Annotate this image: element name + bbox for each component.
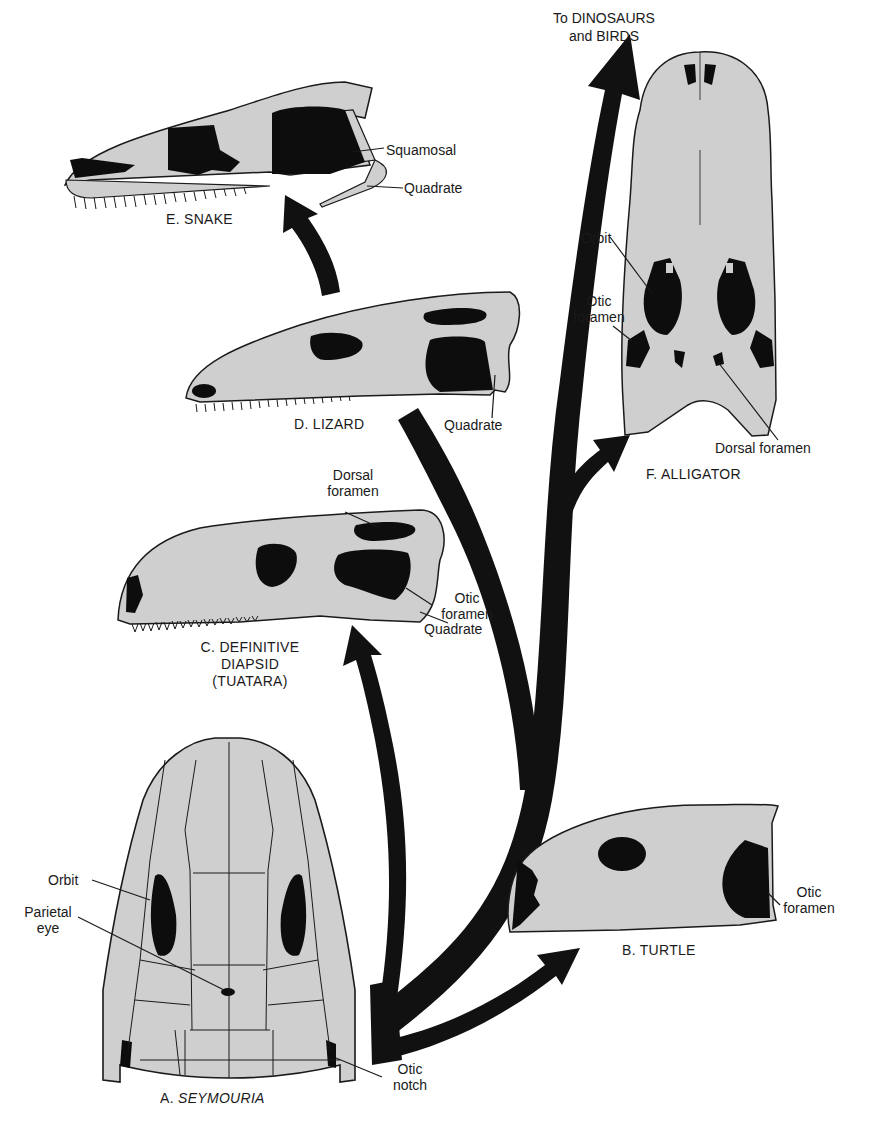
turtle-caption: B. TURTLE	[622, 942, 696, 959]
snake-lower-jaw	[66, 180, 270, 198]
alligator-orbit-label: Orbit	[581, 230, 611, 247]
tuatara-dorsal-label-line2: foramen	[327, 483, 378, 500]
tuatara-caption-line3: (TUATARA)	[212, 673, 287, 690]
lizard-caption: D. LIZARD	[294, 416, 364, 433]
snake-squamosal-label: Squamosal	[386, 142, 456, 159]
to-dinosaurs-label: To DINOSAURS	[553, 10, 655, 27]
and-birds-label: and BIRDS	[569, 28, 639, 45]
turtle-skull	[508, 804, 780, 932]
lizard-nostril	[192, 384, 216, 398]
alligator-otic-label-line2: foramen	[573, 309, 624, 326]
tuatara-dorsal-label-line1: Dorsal	[333, 467, 373, 484]
seymouria-caption-name: SEYMOURIA	[178, 1090, 265, 1106]
tuatara-otic-label-line1: Otic	[455, 590, 480, 607]
seymouria-caption-prefix: A.	[160, 1090, 178, 1106]
tuatara-caption-line1: C. DEFINITIVE	[201, 639, 300, 656]
alligator-otic-label-line1: Otic	[587, 293, 612, 310]
snake-quadrate-label: Quadrate	[404, 180, 462, 197]
tuatara-skull	[118, 510, 448, 632]
diagram-artwork	[0, 0, 872, 1128]
seymouria-parietal-label-line1: Parietal	[24, 904, 71, 921]
alligator-dorsal-label: Dorsal foramen	[715, 440, 811, 457]
turtle-otic-label-line1: Otic	[797, 884, 822, 901]
alligator-cranium	[622, 52, 776, 436]
arrow-to-snake	[283, 195, 340, 296]
tuatara-quadrate-label: Quadrate	[424, 621, 482, 638]
seymouria-skull	[78, 738, 382, 1082]
snake-skull	[65, 82, 403, 209]
turtle-orbit	[598, 837, 646, 871]
turtle-otic-label-line2: foramen	[783, 900, 834, 917]
seymouria-parietal-label-line2: eye	[37, 920, 60, 937]
arrow-to-tuatara	[343, 625, 406, 1005]
alligator-caption: F. ALLIGATOR	[646, 466, 741, 483]
lizard-temporal-opening	[425, 336, 493, 392]
lizard-skull	[186, 292, 519, 418]
seymouria-otic-label-line1: Otic	[398, 1061, 423, 1078]
seymouria-otic-label-line2: notch	[393, 1077, 427, 1094]
lizard-quadrate-label: Quadrate	[444, 417, 502, 434]
seymouria-caption: A. SEYMOURIA	[160, 1090, 265, 1107]
seymouria-orbit-label: Orbit	[48, 872, 78, 889]
diagram-canvas: To DINOSAURS and BIRDS Squamosal Quadrat…	[0, 0, 872, 1128]
seymouria-otic-notch-left	[120, 1040, 132, 1068]
tuatara-caption-line2: DIAPSID	[221, 656, 279, 673]
alligator-skull	[610, 52, 778, 440]
snake-caption: E. SNAKE	[166, 211, 233, 228]
